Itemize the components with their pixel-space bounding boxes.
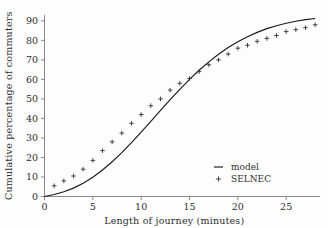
data-series-layer xyxy=(45,19,318,197)
x-tick-label-15: 15 xyxy=(183,201,195,212)
chart-figure: 0510152025 0102030405060708090 modelSELN… xyxy=(0,0,328,228)
x-tick-label-25: 25 xyxy=(280,201,292,212)
y-axis-ticks xyxy=(41,21,45,197)
y-axis-title: Cumulative percentage of commuters xyxy=(3,11,14,200)
series-line-model xyxy=(45,19,316,197)
series-points-SELNEC xyxy=(52,22,318,188)
x-tick-label-10: 10 xyxy=(135,201,147,212)
y-tick-label-70: 70 xyxy=(26,54,38,65)
x-tick-label-5: 5 xyxy=(90,201,96,212)
y-tick-label-10: 10 xyxy=(26,171,38,182)
x-tick-label-0: 0 xyxy=(41,201,47,212)
x-axis-title: Length of journey (minutes) xyxy=(104,215,244,226)
y-tick-label-90: 90 xyxy=(26,15,38,26)
legend-label-model: model xyxy=(231,162,259,172)
y-tick-label-30: 30 xyxy=(26,132,38,143)
x-tick-label-20: 20 xyxy=(232,201,244,212)
y-tick-label-80: 80 xyxy=(26,35,38,46)
y-tick-label-60: 60 xyxy=(26,74,38,85)
y-tick-label-0: 0 xyxy=(32,191,38,202)
x-axis-ticks xyxy=(45,197,287,201)
legend-label-selnec: SELNEC xyxy=(231,174,271,184)
y-tick-label-50: 50 xyxy=(26,93,38,104)
x-axis-tick-labels: 0510152025 xyxy=(41,201,292,212)
axes-group xyxy=(45,15,321,197)
y-tick-label-20: 20 xyxy=(26,152,38,163)
chart-legend: modelSELNEC xyxy=(214,162,271,184)
y-tick-label-40: 40 xyxy=(26,113,38,124)
y-axis-tick-labels: 0102030405060708090 xyxy=(26,15,38,202)
chart-canvas: 0510152025 0102030405060708090 modelSELN… xyxy=(0,0,328,228)
